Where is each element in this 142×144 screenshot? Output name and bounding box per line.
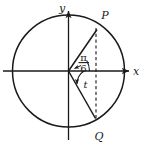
point-label-q: Q <box>94 130 103 143</box>
angle-label-t: t <box>83 79 88 90</box>
angle-label-pi-denominator: 6 <box>80 63 86 74</box>
point-label-p: P <box>100 9 109 22</box>
y-axis-label: y <box>58 2 66 15</box>
x-axis-label: x <box>133 65 140 78</box>
radius-to-point-q <box>69 71 96 119</box>
figure-canvas: π 6 t P Q x y <box>0 0 142 144</box>
unit-circle-figure: π 6 t P Q x y <box>0 0 142 144</box>
angle-label-pi-numerator: π <box>80 52 87 63</box>
